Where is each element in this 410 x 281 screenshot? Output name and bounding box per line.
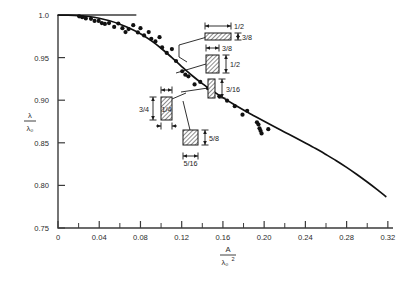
dimension-label: 3/8 <box>222 44 232 53</box>
data-point <box>131 23 135 27</box>
data-point <box>225 99 229 103</box>
dimension-label: 3/8 <box>242 33 252 42</box>
data-point <box>80 15 84 19</box>
data-point <box>233 104 237 108</box>
data-point <box>157 35 161 39</box>
x-tick-label: 0.24 <box>298 233 313 242</box>
figure-root: 00.040.080.120.160.200.240.280.32 0.750.… <box>0 0 410 281</box>
x-tick-label: 0.08 <box>133 233 148 242</box>
data-point <box>149 37 153 41</box>
data-point <box>84 16 88 20</box>
data-point <box>192 82 196 86</box>
y-tick-label: 0.75 <box>34 224 49 233</box>
data-point <box>136 30 140 34</box>
x-axis-title-exponent: 2 <box>231 256 234 262</box>
data-point <box>89 17 93 21</box>
y-tick-label: 0.80 <box>34 181 49 190</box>
data-point <box>259 131 263 135</box>
data-point <box>120 26 124 30</box>
dimension-label: 1/2 <box>230 60 240 69</box>
y-tick-label: 0.85 <box>34 139 49 148</box>
data-point <box>138 26 142 30</box>
data-point <box>266 127 270 131</box>
scatter-plot: 00.040.080.120.160.200.240.280.32 0.750.… <box>0 0 410 281</box>
data-point <box>240 113 244 117</box>
dimension-label: 5/8 <box>209 134 219 143</box>
x-tick-label: 0.12 <box>174 233 189 242</box>
data-point <box>127 27 131 31</box>
x-axis-title-denominator: λ₀ <box>222 258 229 267</box>
y-tick-label: 0.90 <box>34 96 49 105</box>
data-point <box>245 109 249 113</box>
hatched-specimen <box>208 79 215 98</box>
y-axis-title-denominator: λ₀ <box>27 124 34 133</box>
data-point <box>116 21 120 25</box>
x-tick-label: 0.16 <box>216 233 231 242</box>
data-point <box>186 74 190 78</box>
dimension-label: 5/16 <box>184 159 198 168</box>
data-point <box>170 47 174 51</box>
data-point <box>165 51 169 55</box>
x-tick-label: 0.32 <box>380 233 395 242</box>
data-point <box>123 30 127 34</box>
data-point <box>147 30 151 34</box>
data-point <box>142 33 146 37</box>
x-tick-label: 0 <box>56 233 60 242</box>
hatched-specimen <box>206 55 219 73</box>
dimension-label: 1/2 <box>234 22 244 31</box>
data-point <box>112 25 116 29</box>
x-tick-label: 0.04 <box>92 233 107 242</box>
x-tick-label: 0.28 <box>339 233 354 242</box>
data-point <box>107 21 111 25</box>
data-point <box>174 59 178 63</box>
data-point <box>198 80 202 84</box>
y-axis-title-numerator: λ <box>28 111 32 120</box>
y-tick-label: 0.95 <box>34 54 49 63</box>
data-point <box>103 22 107 26</box>
dimension-label: 1/4 <box>162 105 172 114</box>
hatched-specimen <box>205 33 231 40</box>
dimension-label: 3/4 <box>139 105 149 114</box>
data-point <box>256 122 260 126</box>
data-point <box>92 19 96 23</box>
y-tick-label: 1.0 <box>38 11 49 20</box>
data-point <box>153 39 157 43</box>
dimension-label: 3/16 <box>226 85 240 94</box>
hatched-specimen <box>183 130 198 145</box>
x-tick-label: 0.20 <box>257 233 272 242</box>
data-point <box>160 45 164 49</box>
